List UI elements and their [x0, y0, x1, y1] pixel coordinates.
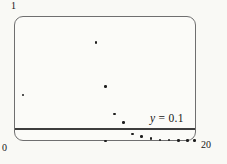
data-point — [186, 139, 189, 142]
threshold-label-value: = 0.1 — [155, 112, 183, 124]
data-point — [113, 113, 116, 116]
sequence-convergence-figure: 1 0 20 y = 0.1 — [0, 0, 227, 164]
threshold-label: y = 0.1 — [150, 112, 184, 125]
data-point — [104, 140, 107, 143]
data-point — [122, 121, 125, 124]
threshold-line — [15, 128, 195, 129]
y-axis-max-label: 1 — [11, 1, 16, 11]
data-point — [104, 85, 107, 88]
data-point — [193, 139, 196, 142]
data-point — [140, 135, 143, 138]
origin-label: 0 — [2, 143, 7, 153]
data-point — [150, 137, 153, 140]
data-point — [177, 139, 180, 142]
x-axis-max-label: 20 — [201, 140, 211, 150]
